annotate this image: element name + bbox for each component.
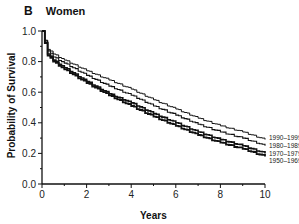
legend-label: 1990–1999: [269, 134, 299, 141]
x-tick-label: 6: [173, 189, 179, 200]
x-tick-label: 2: [84, 189, 90, 200]
y-tick-label: 0.4: [22, 117, 36, 128]
y-tick-label: 0.6: [22, 87, 36, 98]
legend-label: 1980–1989: [269, 142, 299, 149]
y-tick-label: 0.0: [22, 179, 36, 190]
y-tick-label: 1.0: [22, 26, 36, 37]
survival-curves: [42, 31, 265, 157]
x-axis-label: Years: [140, 210, 167, 221]
y-axis-label: Probability of Survival: [6, 51, 17, 161]
x-tick-label: 0: [39, 189, 45, 200]
legend-label: 1970–1979: [269, 150, 299, 157]
legend-label: 1950–1969: [269, 157, 299, 164]
x-tick-label: 4: [128, 189, 134, 200]
y-tick-label: 0.2: [22, 148, 36, 159]
x-tick-label: 10: [259, 189, 271, 200]
survival-curve: [42, 31, 265, 140]
survival-chart: 0.00.20.40.60.81.00246810 1990–19991980–…: [0, 0, 299, 224]
legend: 1990–19991980–19891970–19791950–1969: [269, 134, 299, 164]
survival-curve: [42, 31, 265, 157]
y-tick-label: 0.8: [22, 56, 36, 67]
x-tick-label: 8: [218, 189, 224, 200]
survival-curve: [42, 31, 265, 153]
